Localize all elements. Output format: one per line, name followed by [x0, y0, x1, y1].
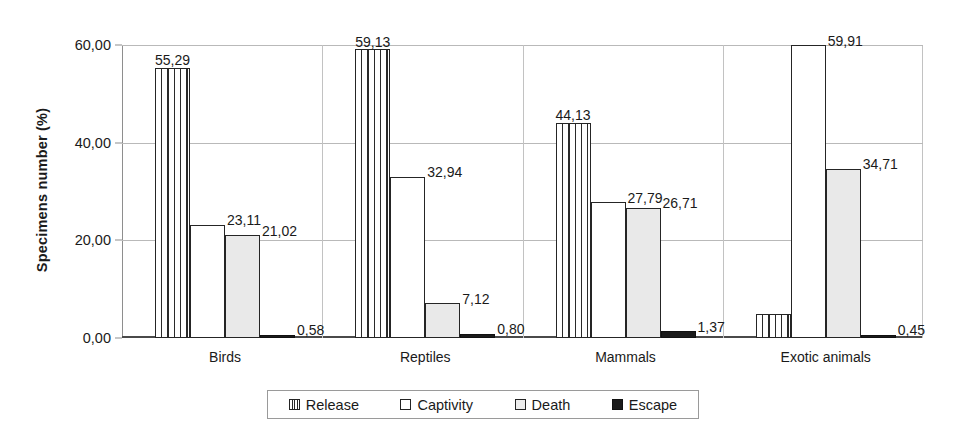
bar-value-label: 26,71	[663, 196, 698, 211]
x-category-label: Reptiles	[400, 349, 451, 365]
bar-value-label: 59,91	[828, 34, 863, 49]
plot-right-border	[922, 45, 923, 338]
bar-value-label: 0,80	[497, 322, 524, 337]
bar-birds-release: 55,29	[155, 68, 190, 338]
bar-exotic-animals-captivity: 59,91	[791, 45, 826, 338]
bar-mammals-escape: 1,37	[661, 331, 696, 338]
plot-area: 0,0020,0040,0060,00 55,2923,1121,020,585…	[122, 45, 923, 338]
bar-birds-escape: 0,58	[260, 335, 295, 338]
chart-legend: ReleaseCaptivityDeathEscape	[267, 390, 699, 419]
category-separator	[523, 45, 524, 338]
bar-exotic-animals-death: 34,71	[826, 169, 861, 339]
y-axis-title: Specimens number (%)	[34, 65, 50, 315]
x-category-label: Exotic animals	[781, 349, 871, 365]
y-tick-label: 60,00	[75, 37, 111, 53]
legend-swatch-icon	[289, 399, 300, 410]
bar-chart: Specimens number (%) 0,0020,0040,0060,00…	[0, 0, 959, 448]
bar-birds-captivity: 23,11	[190, 225, 225, 338]
legend-label: Release	[306, 397, 359, 413]
bar-value-label: 0,58	[297, 323, 324, 338]
bar-exotic-animals-release: 4,93	[756, 314, 791, 338]
legend-item-death[interactable]: Death	[515, 397, 571, 413]
bar-reptiles-escape: 0,80	[460, 334, 495, 338]
bar-reptiles-captivity: 32,94	[390, 177, 425, 338]
bar-exotic-animals-escape: 0,45	[861, 335, 896, 338]
legend-label: Escape	[629, 397, 677, 413]
bar-reptiles-death: 7,12	[425, 303, 460, 338]
bar-value-label: 21,02	[262, 224, 297, 239]
bar-value-label: 59,13	[355, 35, 390, 50]
legend-label: Captivity	[417, 397, 473, 413]
y-tick-mark	[115, 240, 122, 241]
y-axis-line	[122, 45, 123, 338]
y-tick-mark	[115, 142, 122, 143]
bar-mammals-release: 44,13	[556, 123, 591, 339]
legend-swatch-icon	[515, 399, 526, 410]
bar-mammals-captivity: 27,79	[591, 202, 626, 338]
legend-item-escape[interactable]: Escape	[612, 397, 677, 413]
bar-birds-death: 21,02	[225, 235, 260, 338]
y-tick-mark	[115, 45, 122, 46]
bar-value-label: 55,29	[155, 53, 190, 68]
x-category-label: Birds	[209, 349, 241, 365]
x-category-label: Mammals	[595, 349, 656, 365]
legend-swatch-icon	[400, 399, 411, 410]
y-tick-mark	[115, 338, 122, 339]
bar-value-label: 32,94	[427, 165, 462, 180]
bar-value-label: 7,12	[462, 292, 489, 307]
bar-mammals-death: 26,71	[626, 208, 661, 338]
legend-label: Death	[532, 397, 571, 413]
bar-value-label: 1,37	[698, 320, 725, 335]
bar-value-label: 44,13	[555, 108, 590, 123]
legend-item-captivity[interactable]: Captivity	[400, 397, 473, 413]
bar-value-label: 34,71	[863, 157, 898, 172]
bar-value-label: 0,45	[898, 323, 925, 338]
bar-reptiles-release: 59,13	[355, 49, 390, 338]
legend-item-release[interactable]: Release	[289, 397, 359, 413]
y-tick-label: 20,00	[75, 232, 111, 248]
y-tick-label: 40,00	[75, 135, 111, 151]
category-separator	[322, 45, 323, 338]
category-separator	[723, 45, 724, 338]
bar-value-label: 27,79	[628, 191, 663, 206]
y-tick-label: 0,00	[83, 330, 111, 346]
bar-value-label: 23,11	[227, 213, 261, 228]
legend-swatch-icon	[612, 399, 623, 410]
